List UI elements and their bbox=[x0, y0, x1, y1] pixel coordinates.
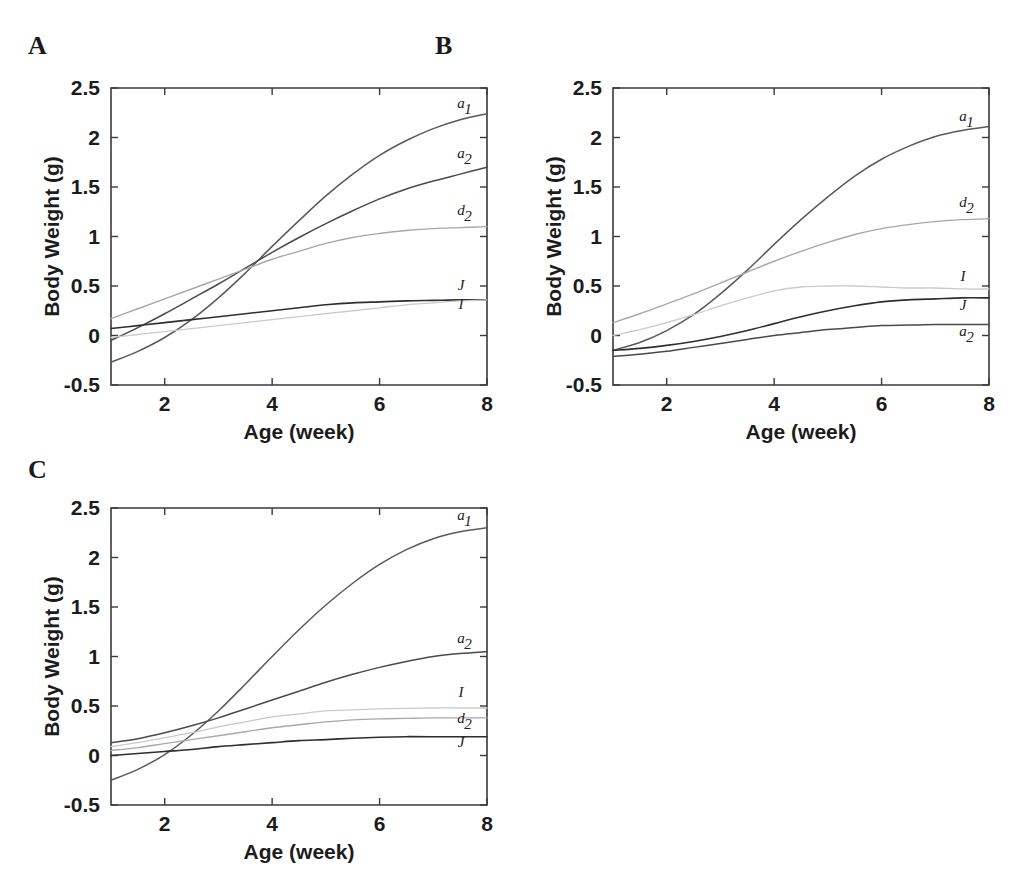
x-tick-label: 6 bbox=[374, 392, 386, 415]
series-label-I: I bbox=[458, 296, 465, 312]
svg-text:J: J bbox=[960, 297, 968, 313]
y-tick-label: 2.5 bbox=[573, 76, 603, 99]
x-tick-label: 4 bbox=[768, 392, 780, 415]
series-label-d2: d2 bbox=[457, 202, 472, 224]
series-label-a2: a2 bbox=[959, 323, 974, 345]
svg-text:2: 2 bbox=[464, 151, 472, 167]
y-axis-title: Body Weight (g) bbox=[40, 156, 63, 317]
panel-letter-b: B bbox=[435, 33, 452, 59]
y-tick-label: 1 bbox=[88, 645, 100, 668]
y-tick-label: 0.5 bbox=[71, 694, 101, 717]
series-label-a2: a2 bbox=[457, 630, 472, 652]
x-tick-label: 2 bbox=[159, 392, 171, 415]
curve-J bbox=[111, 300, 487, 329]
y-tick-label: 1.5 bbox=[573, 175, 603, 198]
y-tick-label: 1 bbox=[88, 225, 100, 248]
plot-frame bbox=[111, 88, 487, 385]
y-tick-label: 2 bbox=[88, 546, 100, 569]
y-tick-label: 1.5 bbox=[71, 175, 101, 198]
x-axis-title: Age (week) bbox=[746, 420, 857, 443]
y-tick-label: 0 bbox=[88, 744, 100, 767]
x-tick-label: 8 bbox=[481, 812, 493, 835]
series-label-a1: a1 bbox=[959, 108, 974, 130]
svg-text:1: 1 bbox=[464, 513, 472, 529]
y-tick-label: 2 bbox=[88, 126, 100, 149]
y-tick-label: 2.5 bbox=[71, 76, 101, 99]
curve-a1 bbox=[111, 528, 487, 780]
y-tick-label: 0.5 bbox=[71, 274, 101, 297]
svg-text:2: 2 bbox=[464, 208, 472, 224]
chart-panel-c: -0.500.511.522.52468Age (week)Body Weigh… bbox=[0, 480, 520, 876]
curve-I bbox=[111, 300, 487, 338]
curve-I bbox=[613, 286, 989, 336]
x-axis-title: Age (week) bbox=[244, 840, 355, 863]
figure-body-weight-growth-curves: A-0.500.511.522.52468Age (week)Body Weig… bbox=[0, 0, 1022, 876]
series-label-a1: a1 bbox=[457, 507, 472, 529]
chart-panel-b: -0.500.511.522.52468Age (week)Body Weigh… bbox=[502, 60, 1022, 476]
y-axis-title: Body Weight (g) bbox=[542, 156, 565, 317]
series-label-a1: a1 bbox=[457, 95, 472, 117]
x-tick-label: 4 bbox=[266, 392, 278, 415]
series-label-d2: d2 bbox=[457, 710, 472, 732]
svg-text:1: 1 bbox=[464, 101, 472, 117]
series-label-I: I bbox=[458, 684, 465, 700]
series-label-I: I bbox=[960, 268, 967, 284]
x-tick-label: 8 bbox=[983, 392, 995, 415]
svg-text:2: 2 bbox=[966, 200, 974, 216]
svg-text:I: I bbox=[458, 296, 465, 312]
y-tick-label: -0.5 bbox=[64, 793, 101, 816]
chart-panel-a: -0.500.511.522.52468Age (week)Body Weigh… bbox=[0, 60, 520, 476]
curve-d2 bbox=[111, 718, 487, 751]
curve-a2 bbox=[111, 652, 487, 743]
svg-text:1: 1 bbox=[966, 114, 974, 130]
curve-d2 bbox=[111, 227, 487, 319]
svg-text:J: J bbox=[458, 277, 466, 293]
curve-a2 bbox=[111, 167, 487, 340]
series-label-J: J bbox=[458, 277, 466, 293]
svg-text:2: 2 bbox=[966, 329, 974, 345]
plot-frame bbox=[613, 88, 989, 385]
curve-d2 bbox=[613, 219, 989, 323]
series-label-d2: d2 bbox=[959, 194, 974, 216]
y-tick-label: 0 bbox=[88, 324, 100, 347]
y-tick-label: 1.5 bbox=[71, 595, 101, 618]
y-tick-label: 0 bbox=[590, 324, 602, 347]
y-tick-label: 2.5 bbox=[71, 496, 101, 519]
y-tick-label: 2 bbox=[590, 126, 602, 149]
series-label-J: J bbox=[960, 297, 968, 313]
series-label-a2: a2 bbox=[457, 145, 472, 167]
svg-text:2: 2 bbox=[464, 716, 472, 732]
svg-text:I: I bbox=[960, 268, 967, 284]
y-axis-title: Body Weight (g) bbox=[40, 576, 63, 737]
svg-text:I: I bbox=[458, 684, 465, 700]
x-tick-label: 4 bbox=[266, 812, 278, 835]
y-tick-label: 1 bbox=[590, 225, 602, 248]
y-tick-label: -0.5 bbox=[64, 373, 101, 396]
x-axis-title: Age (week) bbox=[244, 420, 355, 443]
x-tick-label: 8 bbox=[481, 392, 493, 415]
y-tick-label: 0.5 bbox=[573, 274, 603, 297]
panel-letter-a: A bbox=[28, 33, 47, 59]
x-tick-label: 2 bbox=[159, 812, 171, 835]
x-tick-label: 6 bbox=[876, 392, 888, 415]
y-tick-label: -0.5 bbox=[566, 373, 603, 396]
svg-text:2: 2 bbox=[464, 636, 472, 652]
x-tick-label: 6 bbox=[374, 812, 386, 835]
x-tick-label: 2 bbox=[661, 392, 673, 415]
